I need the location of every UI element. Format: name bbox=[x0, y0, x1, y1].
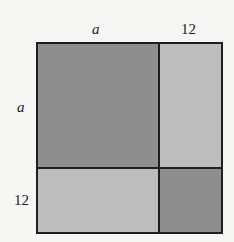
horizontal-divider bbox=[36, 167, 223, 169]
vertical-divider bbox=[158, 42, 160, 234]
label-side-a: a bbox=[17, 100, 25, 115]
label-side-12: 12 bbox=[14, 193, 29, 208]
area-model-diagram: a 12 a 12 bbox=[0, 0, 234, 242]
outer-square-border bbox=[36, 42, 223, 234]
label-top-12: 12 bbox=[181, 22, 196, 37]
label-top-a: a bbox=[92, 22, 100, 37]
